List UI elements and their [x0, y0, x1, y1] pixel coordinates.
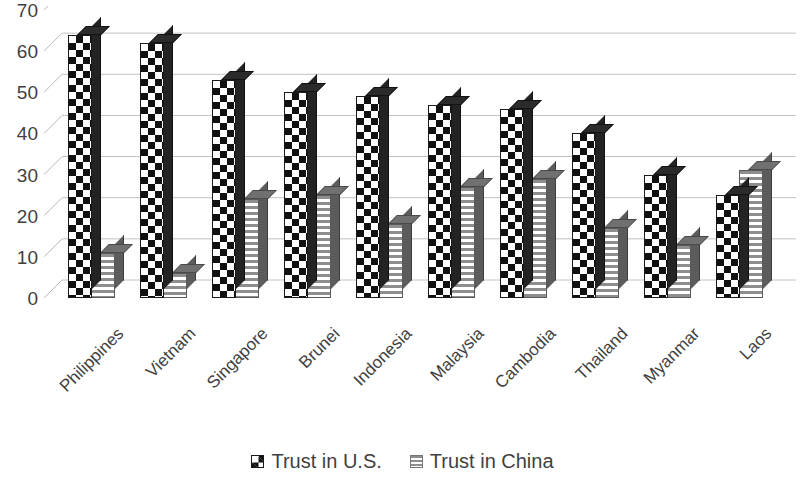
bar-us[interactable]: [428, 105, 452, 298]
bar-side-face: [763, 152, 772, 289]
bar-group: [140, 6, 212, 316]
bar-front-face: [212, 80, 236, 298]
x-axis-label-singapore: Singapore: [203, 324, 272, 393]
y-axis-tick-label: 40: [17, 124, 38, 143]
bar-side-face: [547, 161, 556, 289]
x-axis-category-labels: PhilippinesVietnamSingaporeBruneiIndones…: [44, 318, 796, 438]
bar-front-face: [644, 175, 668, 298]
y-axis-tick-label: 10: [17, 248, 38, 267]
bar-top-face: [100, 244, 133, 253]
y-axis: 706050403020100: [0, 0, 44, 322]
legend-item[interactable]: Trust in U.S.: [251, 450, 381, 473]
bar-top-face: [293, 83, 326, 92]
striped-swatch-icon: [410, 455, 423, 468]
bar-top-face: [77, 26, 110, 35]
bar-front-face: [140, 43, 164, 298]
bar-us[interactable]: [212, 80, 236, 298]
x-axis-label-myanmar: Myanmar: [640, 324, 704, 388]
bar-us[interactable]: [140, 43, 164, 298]
bar-top-face: [581, 124, 614, 133]
x-axis-label-indonesia: Indonesia: [350, 324, 416, 390]
x-axis-label-cambodia: Cambodia: [491, 324, 560, 393]
bar-side-face: [668, 157, 677, 289]
chart-legend: Trust in U.S.Trust in China: [0, 450, 805, 473]
bar-front-face: [68, 35, 92, 298]
bar-us[interactable]: [68, 35, 92, 298]
bar-front-face: [500, 109, 524, 298]
bar-us[interactable]: [356, 96, 380, 298]
bar-side-face: [452, 87, 461, 289]
legend-item[interactable]: Trust in China: [410, 450, 554, 473]
x-axis-label-malaysia: Malaysia: [427, 324, 489, 386]
bar-top-face: [604, 219, 637, 228]
y-axis-tick-label: 50: [17, 83, 38, 102]
bar-side-face: [596, 115, 605, 289]
bar-chart: 706050403020100 PhilippinesVietnamSingap…: [0, 0, 805, 483]
bar-top-face: [221, 71, 254, 80]
legend-label: Trust in U.S.: [271, 450, 381, 473]
y-axis-tick-label: 30: [17, 166, 38, 185]
bar-top-face: [509, 100, 542, 109]
bar-us[interactable]: [716, 195, 740, 298]
bar-us[interactable]: [644, 175, 668, 298]
x-axis-label-philippines: Philippines: [56, 324, 128, 396]
y-axis-tick-label: 70: [17, 1, 38, 20]
bar-group: [356, 6, 428, 316]
y-axis-tick-label: 20: [17, 207, 38, 226]
bar-top-face: [653, 166, 686, 175]
bar-front-face: [716, 195, 740, 298]
bar-top-face: [149, 34, 182, 43]
bar-top-face: [460, 178, 493, 187]
bar-us[interactable]: [572, 133, 596, 298]
plot-area: [44, 6, 796, 316]
bar-group: [644, 6, 716, 316]
bar-top-face: [365, 87, 398, 96]
bar-top-face: [437, 96, 470, 105]
bar-group: [572, 6, 644, 316]
bar-front-face: [284, 92, 308, 298]
bar-front-face: [572, 133, 596, 298]
bar-side-face: [524, 91, 533, 289]
bar-group: [500, 6, 572, 316]
bar-side-face: [308, 74, 317, 289]
bars-layer: [44, 6, 796, 316]
bar-top-face: [532, 170, 565, 179]
x-axis-label-brunei: Brunei: [295, 324, 344, 373]
bar-top-face: [388, 215, 421, 224]
bar-group: [716, 6, 788, 316]
bar-top-face: [676, 236, 709, 245]
bar-group: [428, 6, 500, 316]
bar-side-face: [92, 17, 101, 289]
bar-side-face: [380, 78, 389, 289]
bar-group: [68, 6, 140, 316]
y-axis-tick-label: 60: [17, 42, 38, 61]
bar-top-face: [316, 186, 349, 195]
bar-group: [284, 6, 356, 316]
bar-side-face: [115, 235, 124, 289]
y-axis-tick-label: 0: [27, 289, 38, 308]
bar-front-face: [428, 105, 452, 298]
bar-group: [212, 6, 284, 316]
x-axis-label-laos: Laos: [736, 324, 776, 364]
bar-side-face: [164, 25, 173, 289]
bar-top-face: [172, 264, 205, 273]
legend-label: Trust in China: [430, 450, 554, 473]
x-axis-label-thailand: Thailand: [572, 324, 632, 384]
bar-us[interactable]: [284, 92, 308, 298]
bar-side-face: [236, 62, 245, 289]
bar-us[interactable]: [500, 109, 524, 298]
x-axis-label-vietnam: Vietnam: [142, 324, 200, 382]
bar-top-face: [748, 161, 781, 170]
bar-front-face: [356, 96, 380, 298]
bar-top-face: [244, 190, 277, 199]
checkerboard-swatch-icon: [251, 455, 264, 468]
